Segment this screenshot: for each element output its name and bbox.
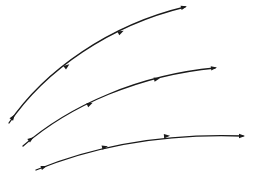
curve-line <box>36 136 243 170</box>
arrowhead-icon <box>181 4 188 10</box>
curve-line <box>9 7 185 123</box>
curves-layer <box>9 4 245 170</box>
streamline-diagram <box>0 0 258 181</box>
bottom-curve <box>36 134 245 171</box>
middle-curve <box>23 65 217 146</box>
curve-line <box>23 68 215 146</box>
arrowhead-icon <box>211 65 218 70</box>
arrowhead-icon <box>40 164 47 170</box>
arrowhead-icon <box>102 144 109 150</box>
top-curve <box>9 4 187 123</box>
arrowhead-icon <box>239 134 245 138</box>
